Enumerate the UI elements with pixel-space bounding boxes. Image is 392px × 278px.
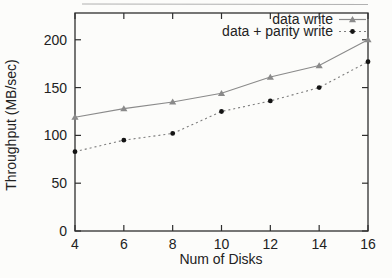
legend-entry-data-parity-write: data + parity write <box>222 23 366 39</box>
data-point-marker-circle <box>170 131 175 136</box>
x-tick-label: 14 <box>311 236 327 252</box>
y-tick-label: 50 <box>51 175 67 191</box>
x-tick-label: 10 <box>214 236 230 252</box>
legend: data write data + parity write <box>222 11 366 39</box>
data-point-marker-circle <box>317 85 322 90</box>
x-axis-title: Num of Disks <box>179 251 262 267</box>
data-point-marker-circle <box>73 149 78 154</box>
y-tick-label: 150 <box>44 80 68 96</box>
axis-ticks <box>75 13 368 231</box>
data-point-marker-circle <box>366 59 371 64</box>
legend-label-data-parity-write: data + parity write <box>222 23 333 39</box>
y-axis-title: Throughput (MB/sec) <box>3 59 19 191</box>
data-point-marker-triangle <box>316 62 323 68</box>
y-tick-label: 100 <box>44 127 68 143</box>
plot-border <box>75 13 368 231</box>
series-line-data-write <box>75 40 368 117</box>
x-tick-label: 6 <box>120 236 128 252</box>
y-tick-label: 0 <box>59 223 67 239</box>
chart-canvas: 46810121416050100150200 Num of Disks Thr… <box>0 0 392 278</box>
data-point-marker-circle <box>121 138 126 143</box>
throughput-line-chart-figure: 46810121416050100150200 Num of Disks Thr… <box>0 0 392 278</box>
data-point-marker-circle <box>268 99 273 104</box>
data-series <box>71 36 371 154</box>
x-tick-label: 16 <box>360 236 376 252</box>
x-tick-label: 12 <box>263 236 279 252</box>
legend-marker-circle-icon <box>350 29 355 34</box>
x-tick-label: 4 <box>71 236 79 252</box>
scan-artifact-line <box>82 4 368 5</box>
data-point-marker-circle <box>219 109 224 114</box>
axis-tick-labels: 46810121416050100150200 <box>44 32 376 252</box>
x-tick-label: 8 <box>169 236 177 252</box>
y-tick-label: 200 <box>44 32 68 48</box>
series-line-data-parity-write <box>75 62 368 152</box>
